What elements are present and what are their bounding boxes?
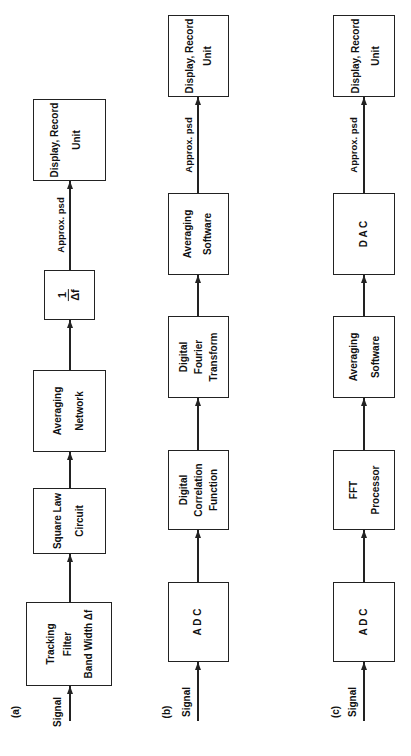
block-averaging-software (168, 193, 229, 275)
block-label: Function (208, 469, 221, 511)
block-display-record-unit (333, 15, 395, 97)
block-label: Display, Record (350, 19, 363, 94)
block-label: Square Law (52, 493, 65, 549)
block-label: Fourier (193, 340, 206, 374)
block-label: Digital (178, 475, 191, 506)
block-fft-processor (333, 450, 395, 530)
row-a-output-label: Approx. psd (55, 197, 67, 252)
block-label: Display, Record (49, 103, 62, 178)
block-label: Averaging (348, 333, 361, 382)
block-label: Network (74, 391, 87, 430)
arrow-up-icon (361, 398, 367, 406)
arrow-up-icon (67, 554, 73, 562)
arrow-up-icon (67, 452, 73, 460)
arrow-up-icon (67, 181, 73, 189)
block-label: Digital (178, 342, 191, 373)
arrow-up-icon (195, 275, 201, 283)
row-c-signal-label: Signal (347, 687, 358, 717)
arrow-up-icon (67, 686, 73, 694)
block-label: D A C (358, 221, 371, 247)
arrow-up-icon (195, 662, 201, 670)
arrow-up-icon (195, 530, 201, 538)
block-label: FFT (348, 481, 361, 499)
block-label: Unit (202, 46, 215, 65)
block-label: Display, Record (184, 19, 197, 94)
block-display-record-unit (168, 15, 229, 97)
row-c-output-label: Approx. psd (348, 117, 360, 172)
block-label: Processor (370, 466, 383, 515)
block-label: Averaging (52, 387, 65, 436)
block-label: Software (202, 213, 215, 255)
block-label: Band Width Δf (83, 610, 96, 679)
block-label: Filter (62, 632, 75, 656)
arrow-up-icon (67, 320, 73, 328)
arrow-up-icon (361, 275, 367, 283)
block-label: Unit (370, 46, 383, 65)
block-label: Averaging (182, 210, 195, 259)
row-b-tag: (b) (161, 706, 172, 719)
row-a-signal-label: Signal (52, 697, 63, 727)
row-b-output-label: Approx. psd (183, 117, 195, 172)
block-averaging-network (33, 370, 106, 452)
block-display-record-unit (33, 99, 106, 181)
fraction-numerator: 1 (56, 289, 69, 301)
arrow-up-icon (361, 662, 367, 670)
block-label: Circuit (74, 505, 87, 537)
row-c-tag: (c) (330, 706, 341, 718)
row-a-tag: (a) (10, 706, 21, 718)
block-label: Unit (71, 130, 84, 149)
fraction-denominator: Δf (69, 289, 82, 301)
fraction-label: 1Δf (56, 289, 82, 301)
block-label: A D C (358, 609, 371, 636)
row-b-signal-label: Signal (181, 687, 192, 717)
arrow-up-icon (195, 97, 201, 105)
block-label: Transform (208, 333, 221, 382)
block-square-law-circuit (33, 488, 106, 554)
arrow-up-icon (361, 530, 367, 538)
block-label: Tracking (45, 623, 58, 664)
block-label: Software (370, 336, 383, 378)
block-averaging-software (333, 316, 395, 398)
arrow-up-icon (361, 97, 367, 105)
block-label: Correlation (193, 463, 206, 516)
arrow-up-icon (195, 398, 201, 406)
block-label: A D C (192, 609, 205, 636)
